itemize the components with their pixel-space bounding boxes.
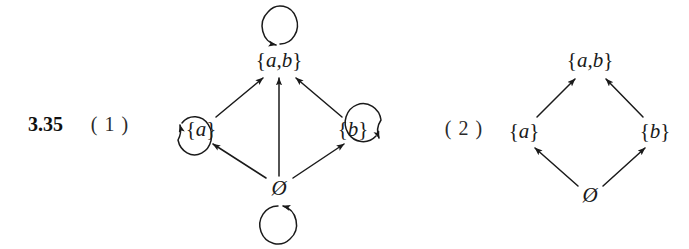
node-label-ab-2: {a,b}	[567, 50, 613, 71]
self-loop-empty-1	[260, 206, 297, 244]
brace-close: }	[206, 117, 216, 141]
node-label-a-2: {a}	[509, 121, 540, 142]
brace-close: }	[603, 48, 613, 72]
edge-b-to-ab-1	[296, 78, 342, 117]
edge-empty-to-b-2	[603, 148, 645, 186]
node-label-b-2: {b}	[640, 121, 671, 142]
node-text-ab-2: a,b	[577, 48, 603, 72]
node-text-ab-1: a,b	[266, 48, 292, 72]
node-label-empty-2: Ø	[582, 185, 597, 206]
node-text-b-2: b	[650, 119, 661, 143]
edge-a-to-ab-2	[537, 79, 575, 117]
edge-empty-to-a-2	[535, 148, 578, 186]
brace-open: {	[567, 48, 577, 72]
brace-close: }	[358, 117, 368, 141]
node-text-a-2: a	[519, 119, 530, 143]
brace-open: {	[509, 119, 519, 143]
brace-close: }	[529, 119, 539, 143]
node-text-b-1: b	[348, 117, 359, 141]
edge-a-to-ab-1	[216, 78, 263, 117]
node-text-a-1: a	[196, 117, 207, 141]
brace-open: {	[256, 48, 266, 72]
node-label-b-1: {b}	[338, 119, 369, 140]
edge-empty-to-a-1	[213, 144, 266, 178]
brace-open: {	[186, 117, 196, 141]
brace-open: {	[338, 117, 348, 141]
figure-container: 3.35 ( 1 ) ( 2 )	[0, 0, 689, 249]
node-label-a-1: {a}	[186, 119, 217, 140]
brace-open: {	[640, 119, 650, 143]
brace-close: }	[292, 48, 302, 72]
edge-empty-to-b-1	[293, 144, 344, 178]
node-label-empty-1: Ø	[271, 178, 286, 199]
node-label-ab-1: {a,b}	[256, 50, 302, 71]
brace-close: }	[660, 119, 670, 143]
self-loop-ab-1	[262, 6, 297, 45]
edge-b-to-ab-2	[606, 79, 643, 117]
